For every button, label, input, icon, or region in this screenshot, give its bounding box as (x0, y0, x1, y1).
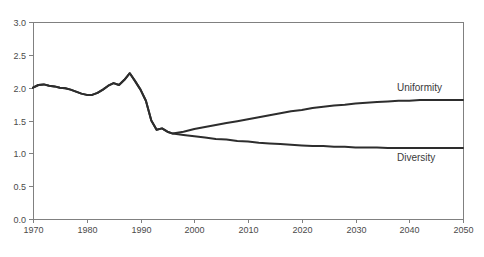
x-tick-label: 1970 (23, 225, 43, 235)
y-tick-label: 0.5 (13, 182, 26, 192)
x-tick-label: 2030 (346, 225, 366, 235)
x-tick-label: 2000 (184, 225, 204, 235)
plot-frame (34, 23, 464, 220)
x-tick-label: 2040 (399, 225, 419, 235)
y-tick-label: 0.0 (13, 215, 26, 225)
x-tick-label: 2010 (238, 225, 258, 235)
x-tick-label: 1990 (131, 225, 151, 235)
y-tick-label: 1.5 (13, 117, 26, 127)
series-label-uniformity: Uniformity (397, 83, 442, 93)
line-chart: 0.00.51.01.52.02.53.01970198019902000201… (0, 0, 484, 257)
x-tick-label: 1980 (77, 225, 97, 235)
y-tick-label: 1.0 (13, 149, 26, 159)
plot-svg: 0.00.51.01.52.02.53.01970198019902000201… (0, 0, 484, 257)
y-tick-label: 3.0 (13, 18, 26, 28)
y-tick-label: 2.0 (13, 84, 26, 94)
y-tick-label: 2.5 (13, 51, 26, 61)
series-label-diversity: Diversity (397, 153, 435, 163)
x-tick-label: 2020 (292, 225, 312, 235)
x-tick-label: 2050 (453, 225, 473, 235)
